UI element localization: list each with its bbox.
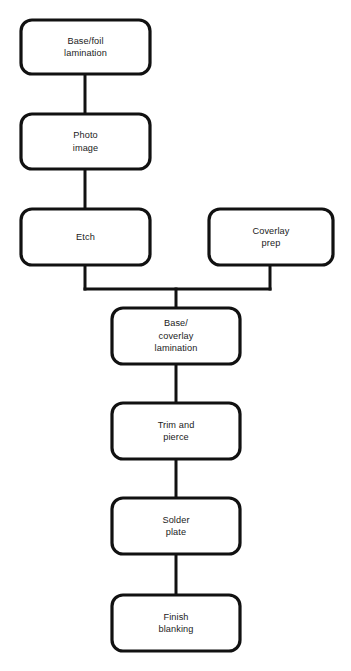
- process-box-trim-and-pierce[interactable]: [112, 403, 240, 459]
- process-box-coverlay-prep[interactable]: [209, 209, 333, 265]
- process-box-etch[interactable]: [21, 209, 150, 265]
- process-flowchart: Base/foil laminationPhoto imageEtchCover…: [0, 0, 351, 671]
- process-box-solder-plate[interactable]: [112, 498, 240, 554]
- process-box-base-coverlay-lamination[interactable]: [112, 308, 240, 364]
- process-box-photo-image[interactable]: [21, 114, 150, 169]
- process-box-finish-blanking[interactable]: [112, 595, 240, 651]
- process-box-base-foil-lamination[interactable]: [21, 20, 150, 74]
- flowchart-graphics: [0, 0, 351, 671]
